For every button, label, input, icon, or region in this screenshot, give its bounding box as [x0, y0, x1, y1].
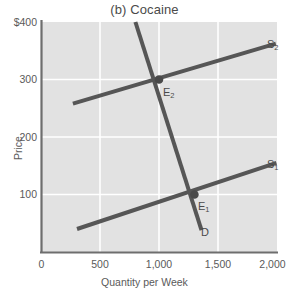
equilibrium-point-e1	[190, 190, 199, 199]
ytick-label-400: $400	[0, 16, 37, 28]
annotation-label-e2: E2	[163, 86, 175, 98]
xtick-label-1500: 1,500	[198, 258, 238, 270]
curve-label-d: D	[201, 226, 209, 238]
xtick-label-1000: 1,000	[139, 258, 179, 270]
curve-label-s1: S1	[267, 158, 279, 170]
xtick-label-500: 500	[83, 258, 117, 270]
xtick-label-0: 0	[26, 258, 57, 270]
curve-label-s2: S2	[267, 38, 279, 50]
supply-demand-plot	[0, 0, 289, 297]
ytick-label-100: 100	[0, 188, 37, 200]
curve-label-s2-subscript: 2	[274, 43, 278, 52]
y-axis-title: Price	[12, 136, 24, 160]
ytick-label-300: 300	[0, 73, 37, 85]
curve-label-s1-subscript: 1	[274, 163, 278, 172]
annotation-label-e1: E1	[198, 200, 210, 212]
xtick-label-2000: 2,000	[256, 258, 289, 270]
x-axis-title: Quantity per Week	[0, 276, 289, 288]
equilibrium-point-e2	[155, 75, 164, 84]
annotation-label-e2-subscript: 2	[170, 91, 174, 100]
figure-panel-cocaine: (b) Cocaine $400 300 200 100 Price 0 500…	[0, 0, 289, 297]
annotation-label-e1-subscript: 1	[205, 205, 209, 214]
